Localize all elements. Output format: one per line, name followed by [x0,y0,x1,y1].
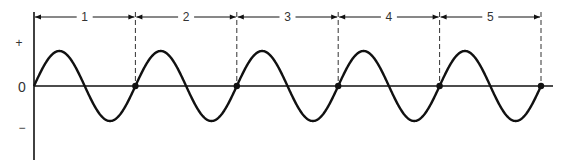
cycle-dimension-3: 3 [238,10,337,24]
cycle-label: 1 [81,10,88,24]
cycle-label: 4 [386,10,393,24]
cycle-point [335,83,341,89]
cycle-label: 3 [284,10,291,24]
cycle-point [538,83,544,89]
cycle-dimension-1: 1 [35,10,134,24]
cycle-boundaries [135,12,541,86]
cycle-point [436,83,442,89]
sine-wave-diagram: + 0 − 12345 [0,0,568,167]
zero-label: 0 [18,79,26,95]
minus-label: − [18,121,25,135]
cycle-dimension-lines: 12345 [35,10,540,24]
cycle-point [234,83,240,89]
cycle-label: 2 [183,10,190,24]
cycle-point [132,83,138,89]
cycle-dimension-4: 4 [339,10,438,24]
cycle-dimension-5: 5 [441,10,540,24]
cycle-label: 5 [487,10,494,24]
cycle-dimension-2: 2 [136,10,235,24]
plus-label: + [15,36,22,50]
